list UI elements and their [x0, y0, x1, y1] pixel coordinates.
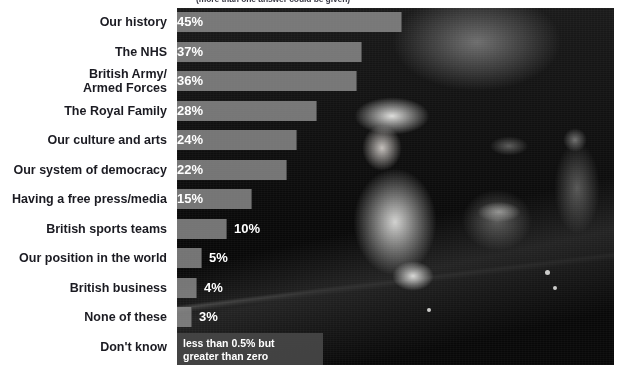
- category-label-line-1: None of these: [84, 310, 167, 324]
- category-label-line-1: Our position in the world: [19, 251, 167, 265]
- category-label-line-1: Don't know: [100, 340, 167, 354]
- bar-row: less than 0.5% butgreater than zero: [177, 337, 614, 357]
- bar-value-label: 37%: [177, 42, 362, 62]
- bar-value-label: 5%: [202, 248, 228, 268]
- bar-row: 45%: [177, 12, 614, 32]
- bar: [177, 219, 227, 239]
- bar-series: 45%37%36%28%24%22%15%10%5%4%3%less than …: [177, 8, 614, 365]
- bar-row: 15%: [177, 189, 614, 209]
- category-label-line-1: Our system of democracy: [13, 163, 167, 177]
- footnote-line-2: greater than zero: [183, 350, 268, 362]
- bar-row: 37%: [177, 42, 614, 62]
- category-label: British Army/Armed Forces: [0, 67, 167, 95]
- category-label-column: Our historyThe NHSBritish Army/Armed For…: [0, 8, 172, 365]
- bar-value-label: 45%: [177, 12, 402, 32]
- category-label: The NHS: [0, 45, 167, 59]
- chart-subtitle: (more than one answer could be given): [196, 0, 496, 4]
- dont-know-footnote: less than 0.5% butgreater than zero: [177, 333, 323, 366]
- bar-row: 4%: [177, 278, 614, 298]
- category-label: None of these: [0, 310, 167, 324]
- category-label: Our position in the world: [0, 251, 167, 265]
- bar-value-label: 4%: [197, 278, 223, 298]
- bar-row: 36%: [177, 71, 614, 91]
- bar-value-label: 28%: [177, 101, 317, 121]
- bar-value-label: 3%: [192, 307, 218, 327]
- bar: [177, 278, 197, 298]
- category-label: Don't know: [0, 340, 167, 354]
- category-label-line-1: The NHS: [115, 45, 167, 59]
- bar: [177, 248, 202, 268]
- bar-row: 10%: [177, 219, 614, 239]
- category-label: Our culture and arts: [0, 133, 167, 147]
- category-label-line-1: Our history: [100, 15, 167, 29]
- footnote-line-1: less than 0.5% but: [183, 337, 275, 349]
- bar-row: 3%: [177, 307, 614, 327]
- category-label-line-1: British Army/: [89, 67, 167, 81]
- category-label-line-1: British business: [70, 281, 167, 295]
- bar-value-label: 10%: [227, 219, 260, 239]
- bar-row: 22%: [177, 160, 614, 180]
- category-label: British sports teams: [0, 222, 167, 236]
- category-label: The Royal Family: [0, 104, 167, 118]
- category-label: Having a free press/media: [0, 192, 167, 206]
- category-label-line-1: The Royal Family: [64, 104, 167, 118]
- category-label-line-1: Our culture and arts: [48, 133, 167, 147]
- category-label-line-2: Armed Forces: [0, 81, 167, 95]
- bar: [177, 307, 192, 327]
- bar-value-label: 15%: [177, 189, 252, 209]
- bar-value-label: 24%: [177, 130, 297, 150]
- bar-row: 5%: [177, 248, 614, 268]
- category-label-line-1: Having a free press/media: [12, 192, 167, 206]
- bar-value-label: 22%: [177, 160, 287, 180]
- bar-row: 24%: [177, 130, 614, 150]
- chart-panel: 45%37%36%28%24%22%15%10%5%4%3%less than …: [177, 8, 614, 365]
- category-label-line-1: British sports teams: [46, 222, 167, 236]
- category-label: Our history: [0, 15, 167, 29]
- bar-value-label: 36%: [177, 71, 357, 91]
- category-label: Our system of democracy: [0, 163, 167, 177]
- bar-row: 28%: [177, 101, 614, 121]
- category-label: British business: [0, 281, 167, 295]
